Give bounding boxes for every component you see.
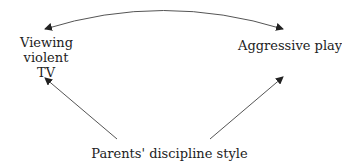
- node-label-line1: Viewing: [20, 35, 72, 50]
- correlation-arrow: [45, 11, 283, 30]
- node-viewing-violent-tv: Viewing violent TV: [20, 35, 72, 80]
- node-parents-discipline-style: Parents' discipline style: [0, 146, 339, 161]
- node-aggressive-play: Aggressive play: [238, 38, 342, 53]
- node-label-line2: violent TV: [20, 50, 72, 80]
- discipline-to-play-arrow: [210, 77, 283, 139]
- discipline-to-tv-arrow: [45, 78, 117, 139]
